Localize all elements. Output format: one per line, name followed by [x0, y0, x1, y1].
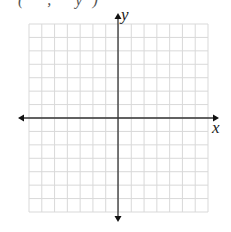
- coordinate-plane: ( , y) y x: [0, 0, 231, 232]
- clipped-heading-fragment: ( , y): [18, 0, 108, 9]
- grid-svg: [0, 0, 231, 232]
- y-axis-label: y: [121, 6, 129, 23]
- x-axis-label: x: [212, 119, 220, 136]
- arrow-down-icon: [115, 216, 122, 222]
- arrow-left-icon: [18, 115, 24, 122]
- axes: [18, 13, 219, 222]
